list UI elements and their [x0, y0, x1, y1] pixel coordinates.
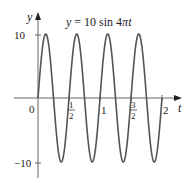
y-tick-label-neg10: −10 [14, 157, 32, 169]
y-axis-arrow-icon [35, 12, 41, 20]
svg-text:2: 2 [131, 111, 136, 121]
y-tick-label-10: 10 [14, 29, 26, 41]
x-tick-label-1: 1 [101, 104, 107, 116]
title-var: t [128, 15, 132, 29]
svg-text:2: 2 [69, 111, 74, 121]
x-tick-label-0: 0 [29, 103, 35, 115]
x-tick-label-2: 2 [163, 104, 169, 116]
title-eq: = 10 sin 4 [71, 15, 122, 29]
y-axis-label: y [26, 10, 33, 24]
sine-chart: y t y = 10 sin 4πt 10 −10 0 1 2 1 3 2 2 [0, 0, 192, 183]
x-tick-label-half: 1 2 [68, 100, 75, 121]
svg-text:3: 3 [131, 100, 136, 110]
svg-text:1: 1 [69, 100, 74, 110]
x-axis-label: t [178, 101, 182, 115]
chart-title: y = 10 sin 4πt [65, 15, 132, 29]
x-tick-label-three-halves: 3 2 [130, 100, 137, 121]
